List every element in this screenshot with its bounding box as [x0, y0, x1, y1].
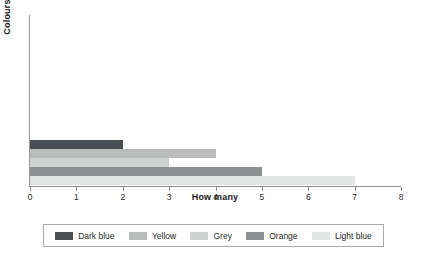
x-axis-tick: [30, 187, 31, 191]
x-axis-title: How many: [29, 192, 401, 202]
bar: [30, 176, 355, 185]
legend-swatch: [55, 232, 73, 240]
legend-swatch: [129, 232, 147, 240]
legend-item[interactable]: Grey: [190, 231, 231, 241]
legend-item[interactable]: Yellow: [129, 231, 176, 241]
bar: [30, 149, 216, 158]
bar: [30, 167, 262, 176]
legend-swatch: [190, 232, 208, 240]
bar-chart: Colours 012345678 How many Dark blueYell…: [0, 0, 430, 264]
y-axis-title-label: Colours: [2, 0, 12, 62]
legend-label: Grey: [213, 231, 231, 241]
legend-item[interactable]: Orange: [246, 231, 297, 241]
legend-label: Light blue: [335, 231, 372, 241]
bar: [30, 158, 169, 167]
chart-legend: Dark blueYellowGreyOrangeLight blue: [43, 224, 384, 247]
x-axis-tick: [262, 187, 263, 191]
legend-swatch: [312, 232, 330, 240]
legend-label: Yellow: [152, 231, 176, 241]
legend-item[interactable]: Dark blue: [55, 231, 114, 241]
y-axis-title: Colours: [2, 0, 16, 62]
x-axis-tick: [123, 187, 124, 191]
bar: [30, 140, 123, 149]
plot-area: 012345678: [29, 15, 401, 187]
x-axis-tick: [169, 187, 170, 191]
x-axis-tick: [76, 187, 77, 191]
x-axis-tick: [216, 187, 217, 191]
x-axis-tick: [308, 187, 309, 191]
bar-series-group: [30, 15, 401, 187]
legend-label: Dark blue: [78, 231, 114, 241]
legend-item[interactable]: Light blue: [312, 231, 372, 241]
x-axis-tick: [355, 187, 356, 191]
x-axis-tick: [401, 187, 402, 191]
legend-label: Orange: [269, 231, 297, 241]
legend-swatch: [246, 232, 264, 240]
